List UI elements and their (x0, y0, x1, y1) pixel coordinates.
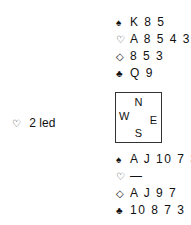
south-hand: ♠ A J 10 7 3 ♡ — ◇ A J 9 7 ♣ 10 8 7 3 (116, 151, 191, 219)
lead-text: 2 led (29, 116, 55, 130)
north-hand: ♠ K 8 5 ♡ A 8 5 4 3 ◇ 8 5 3 ♣ Q 9 (116, 14, 191, 82)
north-spades: ♠ K 8 5 (116, 14, 191, 31)
opening-lead: ♡ 2 led (12, 116, 55, 131)
cards: A 8 5 4 3 (130, 31, 191, 48)
compass-north: N (116, 96, 161, 108)
south-clubs: ♣ 10 8 7 3 (116, 202, 191, 219)
spade-icon: ♠ (116, 151, 130, 168)
heart-icon: ♡ (116, 168, 130, 185)
compass-east: E (150, 114, 157, 126)
cards: K 8 5 (130, 14, 166, 31)
diamond-icon: ◇ (116, 185, 130, 202)
heart-icon: ♡ (116, 31, 130, 48)
diamond-icon: ◇ (116, 48, 130, 65)
compass-box: N W E S (115, 92, 162, 143)
heart-icon: ♡ (12, 117, 26, 131)
cards: Q 9 (130, 65, 154, 82)
north-diamonds: ◇ 8 5 3 (116, 48, 191, 65)
cards: A J 9 7 (130, 185, 177, 202)
cards: 8 5 3 (130, 48, 164, 65)
north-clubs: ♣ Q 9 (116, 65, 191, 82)
south-spades: ♠ A J 10 7 3 (116, 151, 191, 168)
spade-icon: ♠ (116, 14, 130, 31)
south-diamonds: ◇ A J 9 7 (116, 185, 191, 202)
north-hearts: ♡ A 8 5 4 3 (116, 31, 191, 48)
cards: 10 8 7 3 (130, 202, 185, 219)
compass-south: S (116, 127, 161, 139)
south-hearts: ♡ — (116, 168, 191, 185)
cards: A J 10 7 3 (130, 151, 191, 168)
compass-west: W (119, 110, 129, 122)
club-icon: ♣ (116, 65, 130, 82)
club-icon: ♣ (116, 202, 130, 219)
cards: — (130, 168, 144, 185)
